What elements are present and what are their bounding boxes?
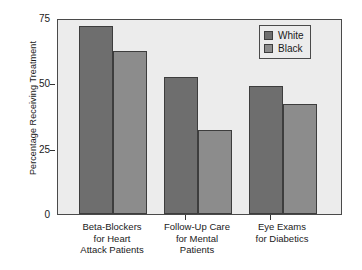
legend: WhiteBlack <box>259 25 311 59</box>
bar-black <box>198 130 232 214</box>
category-label-line: Patients <box>137 244 257 256</box>
legend-label: White <box>278 31 304 41</box>
legend-item-black: Black <box>264 42 304 55</box>
category-label-line: Eye Exams <box>222 221 342 233</box>
bar-black <box>113 51 147 214</box>
bar-white <box>79 26 113 214</box>
legend-item-white: White <box>264 29 304 42</box>
legend-swatch-icon <box>264 44 273 53</box>
y-tick-label: 0 <box>28 210 50 220</box>
bar-group <box>164 20 232 214</box>
bar-black <box>283 104 317 214</box>
bar-chart: Percentage Receiving Treatment 0255075 B… <box>0 0 362 270</box>
y-tick-label: 25 <box>28 145 50 155</box>
y-tick-mark <box>50 84 55 85</box>
bar-white <box>249 86 283 214</box>
legend-label: Black <box>278 44 302 54</box>
y-tick-label: 75 <box>28 14 50 24</box>
x-tick-mark <box>185 215 186 220</box>
legend-swatch-icon <box>264 31 273 40</box>
category-label: Eye Examsfor Diabetics <box>222 221 342 244</box>
y-axis-ticks: 0255075 <box>26 0 50 270</box>
y-tick-mark <box>50 150 55 151</box>
bar-group <box>79 20 147 214</box>
bar-white <box>164 77 198 214</box>
y-tick-label: 50 <box>28 79 50 89</box>
x-tick-mark <box>270 215 271 220</box>
category-label-line: for Diabetics <box>222 233 342 245</box>
